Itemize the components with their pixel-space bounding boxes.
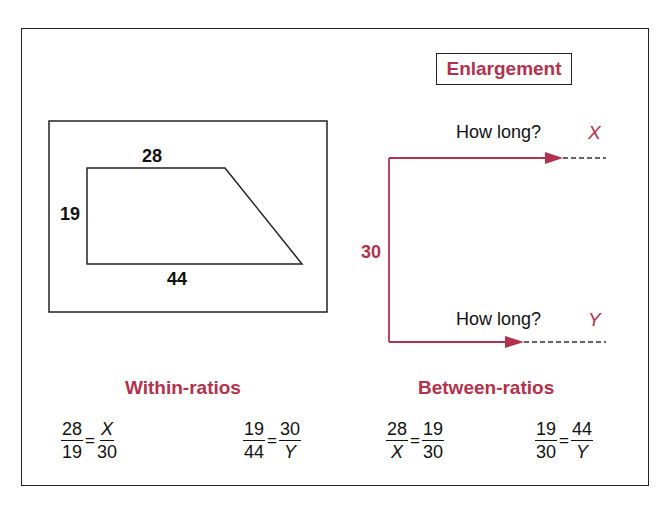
within-equation-2: 1944 = 30Y: [243, 419, 301, 462]
original-shape-box: [49, 121, 327, 312]
between-ratios-heading: Between-ratios: [418, 377, 554, 399]
arrow-head-bottom-icon: [505, 336, 524, 348]
question-bottom: How long?: [456, 309, 541, 330]
within-equation-1: 2819 = X30: [61, 419, 117, 462]
arrow-head-top-icon: [545, 152, 563, 164]
question-top: How long?: [456, 122, 541, 143]
between-equation-2: 1930 = 44Y: [535, 419, 593, 462]
variable-y: Y: [588, 309, 601, 331]
within-ratios-heading: Within-ratios: [125, 377, 241, 399]
label-top-28: 28: [142, 146, 162, 167]
label-bottom-44: 44: [167, 269, 187, 290]
trapezoid-shape: [87, 168, 302, 264]
enlargement-badge: Enlargement: [436, 53, 572, 85]
label-side-30: 30: [361, 242, 381, 263]
between-equation-1: 28X = 1930: [386, 419, 444, 462]
variable-x: X: [588, 122, 601, 144]
label-left-19: 19: [60, 204, 80, 225]
